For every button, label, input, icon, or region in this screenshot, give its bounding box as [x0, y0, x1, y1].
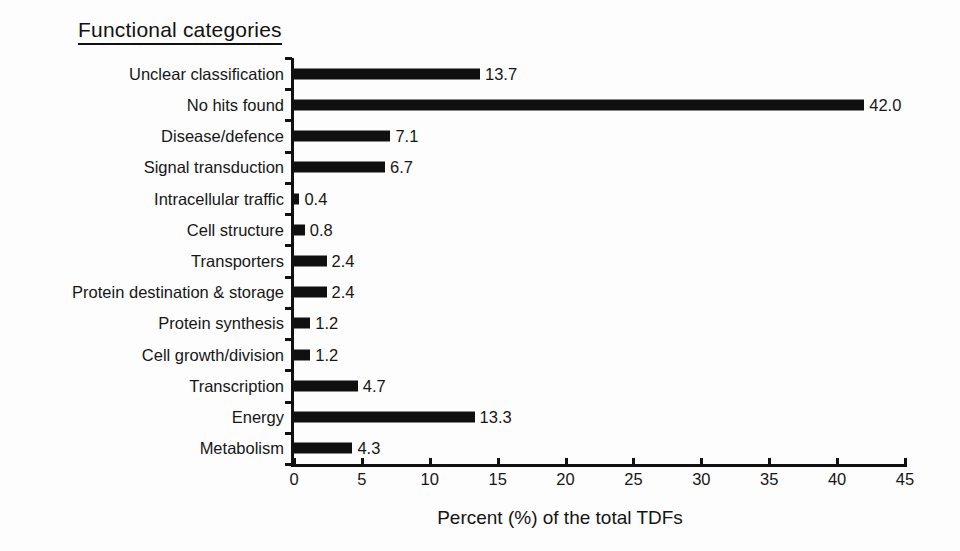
x-axis-tick-label: 20	[556, 471, 574, 488]
x-axis-title: Percent (%) of the total TDFs	[0, 508, 960, 527]
bar	[294, 68, 480, 79]
category-label: Cell growth/division	[142, 346, 284, 363]
bar-row: Intracellular traffic0.4	[0, 183, 960, 214]
y-axis-tick	[285, 151, 292, 154]
x-axis-tick	[632, 458, 635, 467]
bar	[294, 193, 299, 204]
y-axis-tick	[285, 463, 292, 466]
bar-value-label: 1.2	[315, 346, 338, 363]
x-axis-tick-label: 0	[289, 471, 298, 488]
bar-value-label: 6.7	[390, 159, 413, 176]
bar-value-label: 0.8	[310, 222, 333, 239]
x-axis-tick	[700, 458, 703, 467]
bar-row: Protein destination & storage2.4	[0, 277, 960, 308]
x-axis-tick	[768, 458, 771, 467]
bar-row: Cell growth/division1.2	[0, 339, 960, 370]
category-label: Unclear classification	[129, 65, 284, 82]
y-axis-tick	[285, 401, 292, 404]
bar-value-label: 1.2	[315, 315, 338, 332]
x-axis-tick-label: 30	[692, 471, 710, 488]
y-axis-tick	[285, 432, 292, 435]
bar-row: Unclear classification13.7	[0, 58, 960, 89]
bar	[294, 99, 864, 110]
category-label: Energy	[232, 409, 284, 426]
bar-row: Transcription4.7	[0, 370, 960, 401]
x-axis-tick	[836, 458, 839, 467]
bar	[294, 255, 327, 266]
y-axis-tick	[285, 276, 292, 279]
bar-value-label: 2.4	[332, 253, 355, 270]
bar-value-label: 4.3	[357, 440, 380, 457]
bar-row: Protein synthesis1.2	[0, 308, 960, 339]
bar-value-label: 0.4	[304, 190, 327, 207]
y-axis-tick	[285, 244, 292, 247]
y-axis-tick	[285, 57, 292, 60]
x-axis-line	[291, 464, 907, 467]
bar	[294, 412, 475, 423]
x-axis-tick	[293, 458, 296, 467]
x-axis-tick	[361, 458, 364, 467]
y-axis-tick	[285, 369, 292, 372]
bar-chart-figure: Functional categories Unclear classifica…	[0, 0, 960, 551]
plot-area: Unclear classification13.7No hits found4…	[0, 0, 960, 551]
x-axis-tick-label: 40	[828, 471, 846, 488]
bar-value-label: 7.1	[395, 128, 418, 145]
bar	[294, 318, 310, 329]
category-label: Protein destination & storage	[72, 284, 284, 301]
y-axis-tick	[285, 213, 292, 216]
bar	[294, 162, 385, 173]
y-axis-tick	[285, 182, 292, 185]
bar	[294, 287, 327, 298]
category-label: Intracellular traffic	[154, 190, 284, 207]
x-axis-tick	[497, 458, 500, 467]
x-axis-tick-label: 15	[488, 471, 506, 488]
x-axis-tick-label: 10	[421, 471, 439, 488]
bar	[294, 131, 390, 142]
category-label: Cell structure	[187, 222, 284, 239]
category-label: Metabolism	[200, 440, 284, 457]
bar-row: Cell structure0.8	[0, 214, 960, 245]
x-axis-tick	[565, 458, 568, 467]
category-label: No hits found	[187, 97, 284, 114]
y-axis-tick	[285, 88, 292, 91]
bar-value-label: 2.4	[332, 284, 355, 301]
y-axis-tick	[285, 307, 292, 310]
category-label: Signal transduction	[144, 159, 284, 176]
x-axis-tick-label: 25	[624, 471, 642, 488]
bar-row: Energy13.3	[0, 402, 960, 433]
bar-value-label: 42.0	[869, 97, 901, 114]
y-axis-tick	[285, 119, 292, 122]
bar	[294, 443, 352, 454]
x-axis-tick-label: 5	[357, 471, 366, 488]
bar-row: Disease/defence7.1	[0, 120, 960, 151]
bar	[294, 224, 305, 235]
bar-value-label: 4.7	[363, 378, 386, 395]
bar-row: No hits found42.0	[0, 89, 960, 120]
x-axis-tick	[904, 458, 907, 467]
y-axis-tick	[285, 338, 292, 341]
category-label: Disease/defence	[161, 128, 284, 145]
category-label: Transporters	[191, 253, 284, 270]
bar	[294, 380, 358, 391]
x-axis-tick-label: 35	[760, 471, 778, 488]
bar-row: Metabolism4.3	[0, 433, 960, 464]
x-axis-tick	[429, 458, 432, 467]
bar-row: Signal transduction6.7	[0, 152, 960, 183]
bar-row: Transporters2.4	[0, 245, 960, 276]
x-axis-tick-label: 45	[896, 471, 914, 488]
bar-value-label: 13.3	[480, 409, 512, 426]
category-label: Transcription	[189, 378, 284, 395]
bar-value-label: 13.7	[485, 65, 517, 82]
bar	[294, 349, 310, 360]
category-label: Protein synthesis	[158, 315, 284, 332]
